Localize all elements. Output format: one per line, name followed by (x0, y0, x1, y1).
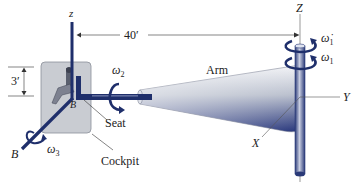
diagram-drawing (0, 0, 358, 189)
arm-length-dimension (77, 33, 300, 38)
omega3-subscript: 3 (55, 149, 59, 158)
arm-label: Arm (206, 64, 228, 76)
omega2-label: ω2 (112, 64, 124, 79)
x-axis-label: X (252, 137, 259, 149)
b-axis-label: B (11, 148, 18, 160)
height-dimension-label: 3′ (11, 75, 20, 87)
omega2-subscript: 2 (120, 70, 124, 79)
cockpit-label: Cockpit (101, 155, 139, 167)
omega3-label: ω3 (47, 143, 59, 158)
centrifuge-diagram: z Z 40′ 3′ ω̇1 ω1 ω2 ω3 Arm Seat Cockpit… (0, 0, 358, 189)
seat-shaft (76, 94, 152, 100)
cockpit-leader (92, 134, 113, 150)
omega1-dot-label: ω̇1 (321, 32, 333, 47)
z-local-label: z (69, 8, 73, 19)
omega1-subscript: 1 (329, 57, 333, 66)
point-b-label: B (70, 100, 76, 110)
z-global-label: Z (296, 2, 303, 14)
omega1-dot-subscript: 1 (329, 38, 333, 47)
seat-label: Seat (105, 117, 126, 129)
omega1-label: ω1 (321, 51, 333, 66)
arm-length-label: 40′ (124, 29, 139, 41)
main-shaft (295, 44, 305, 182)
y-axis-label: Y (343, 91, 350, 103)
